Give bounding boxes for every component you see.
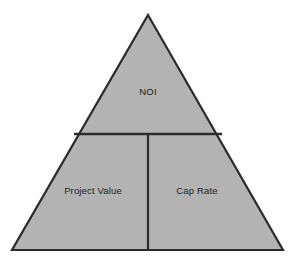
pyramid-diagram: NOI Project Value Cap Rate bbox=[0, 0, 291, 262]
segment-label-cap-rate: Cap Rate bbox=[176, 186, 217, 196]
segment-label-noi: NOI bbox=[139, 87, 156, 97]
pyramid-shape-svg bbox=[0, 0, 291, 262]
segment-label-project-value: Project Value bbox=[64, 186, 122, 196]
